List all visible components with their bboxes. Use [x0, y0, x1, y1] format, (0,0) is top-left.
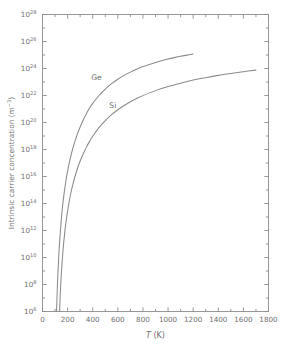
- x-tick-label: 1200: [184, 315, 203, 324]
- x-tick-label: 1000: [159, 315, 178, 324]
- x-tick-label: 600: [111, 315, 125, 324]
- series-label-ge: Ge: [91, 73, 102, 82]
- intrinsic-carrier-concentration-chart: 1061081010101210141016101810201022102410…: [0, 0, 291, 349]
- x-tick-label: 0: [40, 315, 45, 324]
- x-tick-label: 1600: [234, 315, 253, 324]
- x-tick-label: 1800: [259, 315, 278, 324]
- x-axis-title: T (K): [146, 331, 165, 340]
- x-tick-label: 400: [86, 315, 100, 324]
- series-label-si: Si: [109, 101, 116, 110]
- x-tick-label: 200: [61, 315, 75, 324]
- y-axis-title: Intrinsic carrier concentration (m−3): [6, 97, 16, 230]
- chart-figure: 1061081010101210141016101810201022102410…: [0, 0, 291, 349]
- x-tick-label: 1400: [209, 315, 228, 324]
- chart-background: [0, 0, 291, 349]
- x-tick-label: 800: [136, 315, 150, 324]
